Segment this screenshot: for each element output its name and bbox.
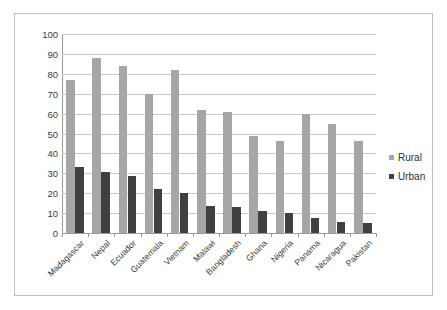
bar-group [167, 34, 193, 233]
bar-urban [206, 206, 215, 233]
y-tick-label: 40 [18, 148, 58, 159]
bar-group [298, 34, 324, 233]
bar-urban [337, 222, 346, 233]
bar-group [350, 34, 376, 233]
bar-group [271, 34, 297, 233]
y-tick-label: 0 [18, 228, 58, 239]
x-tick [271, 233, 272, 237]
legend-swatch-icon [389, 174, 394, 179]
legend-label: Rural [398, 152, 422, 163]
x-tick-label: Vietnam [162, 238, 191, 267]
y-tick-label: 30 [18, 168, 58, 179]
bar-urban [311, 218, 320, 233]
bar-rural [145, 94, 154, 233]
x-tick [193, 233, 194, 237]
y-tick-label: 20 [18, 188, 58, 199]
legend-swatch-icon [389, 155, 394, 160]
bar-urban [285, 213, 294, 233]
bar-group [88, 34, 114, 233]
x-tick [298, 233, 299, 237]
x-tick-label: Madagascar [46, 238, 87, 279]
x-tick [350, 233, 351, 237]
bar-urban [180, 193, 189, 233]
x-tick [114, 233, 115, 237]
y-tick-label: 10 [18, 208, 58, 219]
bar-rural [276, 141, 285, 233]
x-tick [376, 233, 377, 237]
bar-group [245, 34, 271, 233]
x-tick-label: Nepal [89, 238, 112, 261]
bar-rural [328, 124, 337, 233]
x-axis-labels: MadagascarNepalEcuadorGuatemalaVietnamMa… [62, 238, 376, 296]
bar-rural [92, 58, 101, 233]
legend-item: Urban [389, 167, 445, 186]
x-tick [167, 233, 168, 237]
bar-rural [302, 114, 311, 233]
bar-group [324, 34, 350, 233]
plot-area [62, 34, 376, 233]
y-tick-label: 60 [18, 108, 58, 119]
y-tick-label: 50 [18, 128, 58, 139]
bar-group [114, 34, 140, 233]
x-tick [219, 233, 220, 237]
bar-urban [75, 167, 84, 233]
x-tick-label: Pakistan [344, 238, 374, 268]
y-tick-label: 80 [18, 68, 58, 79]
bar-urban [232, 207, 241, 233]
bar-rural [171, 70, 180, 233]
bar-rural [249, 136, 258, 234]
x-tick [141, 233, 142, 237]
chart-legend: RuralUrban [389, 148, 445, 186]
bar-rural [119, 66, 128, 233]
bar-urban [101, 172, 110, 233]
bar-group [62, 34, 88, 233]
bar-rural [197, 110, 206, 233]
bar-group [219, 34, 245, 233]
bar-group [141, 34, 167, 233]
y-tick-label: 100 [18, 29, 58, 40]
chart-frame: 0102030405060708090100 MadagascarNepalEc… [14, 13, 433, 296]
x-tick [62, 233, 63, 237]
bar-group [193, 34, 219, 233]
legend-label: Urban [398, 171, 425, 182]
x-tick [88, 233, 89, 237]
bar-rural [66, 80, 75, 233]
legend-item: Rural [389, 148, 445, 167]
y-axis-labels: 0102030405060708090100 [15, 34, 58, 233]
bar-urban [128, 176, 137, 233]
bar-rural [223, 112, 232, 233]
bar-urban [258, 211, 267, 233]
x-tick [245, 233, 246, 237]
y-tick-label: 90 [18, 48, 58, 59]
y-tick-label: 70 [18, 88, 58, 99]
bar-urban [154, 189, 163, 233]
x-tick [324, 233, 325, 237]
bar-rural [354, 141, 363, 233]
bar-urban [363, 223, 372, 233]
x-tick-label: Ghana [244, 238, 269, 263]
